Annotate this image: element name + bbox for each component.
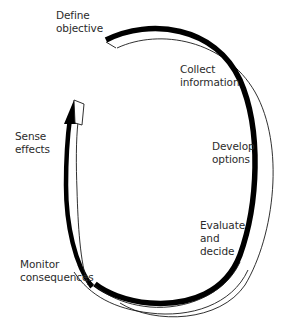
- step-label-line: Evaluate: [200, 219, 245, 232]
- step-evaluate-and-decide: Evaluate and decide: [200, 219, 245, 258]
- ribbon-inner-edge-top: [106, 42, 116, 48]
- step-label-line: decide: [200, 245, 245, 258]
- step-label-line: Sense: [15, 130, 50, 143]
- step-develop-options: Develop options: [212, 140, 255, 166]
- step-collect-information: Collect information: [180, 63, 240, 89]
- step-label-line: Define: [56, 9, 103, 22]
- step-label-line: consequences: [20, 271, 94, 284]
- step-monitor-consequences: Monitor consequences: [20, 258, 94, 284]
- step-sense-effects: Sense effects: [15, 130, 50, 156]
- step-label-line: Collect: [180, 63, 240, 76]
- step-label-line: effects: [15, 143, 50, 156]
- step-label-line: and: [200, 232, 245, 245]
- step-label-line: Monitor: [20, 258, 94, 271]
- step-label-line: Develop: [212, 140, 255, 153]
- step-label-line: information: [180, 76, 240, 89]
- step-define-objective: Define objective: [56, 9, 103, 35]
- step-label-line: options: [212, 153, 255, 166]
- decision-cycle-diagram: Define objective Collect information Dev…: [0, 0, 301, 333]
- step-label-line: objective: [56, 22, 103, 35]
- arrowhead-light-icon: [74, 100, 84, 125]
